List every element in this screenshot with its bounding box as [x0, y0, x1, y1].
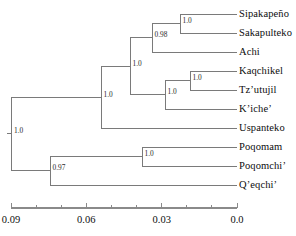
- support-label-poq: 1.0: [145, 150, 154, 157]
- axis-tick-label-0.03: 0.03: [151, 215, 173, 226]
- support-label-poq-qeq: 0.97: [53, 164, 66, 171]
- support-label-sipa-saka: 1.0: [183, 17, 192, 24]
- support-label-kaq-clade: 1.0: [168, 88, 177, 95]
- support-label-root: 1.0: [14, 127, 23, 134]
- axis-tick-label-0.06: 0.06: [75, 215, 97, 226]
- tip-label-poqomchi: Poqomchi’: [239, 161, 286, 172]
- tip-label-tzutujil: Tz’utujil: [239, 85, 277, 96]
- support-label-sipa-clade: 0.98: [155, 31, 168, 38]
- tip-label-kiche: K’iche’: [239, 104, 272, 115]
- tip-label-kaqchikel: Kaqchikel: [239, 66, 283, 77]
- phylogenetic-tree-figure: Sipakapeño Sakapulteko Achi Kaqchikel Tz…: [0, 0, 296, 236]
- tip-label-poqomam: Poqomam: [239, 142, 282, 153]
- tip-label-sipakapeno: Sipakapeño: [239, 9, 289, 20]
- axis-tick-label-0.0: 0.0: [228, 215, 246, 226]
- support-label-ingroup: 1.0: [104, 91, 113, 98]
- tip-label-sakapulteko: Sakapulteko: [239, 28, 292, 39]
- support-label-core: 1.0: [133, 60, 142, 67]
- axis-tick-label-0.09: 0.09: [0, 215, 22, 226]
- support-label-kaq-tzu: 1.0: [193, 74, 202, 81]
- tip-label-qeqchi: Q’eqchi’: [239, 180, 277, 191]
- tip-label-uspanteko: Uspanteko: [239, 123, 285, 134]
- tip-label-achi: Achi: [239, 47, 260, 58]
